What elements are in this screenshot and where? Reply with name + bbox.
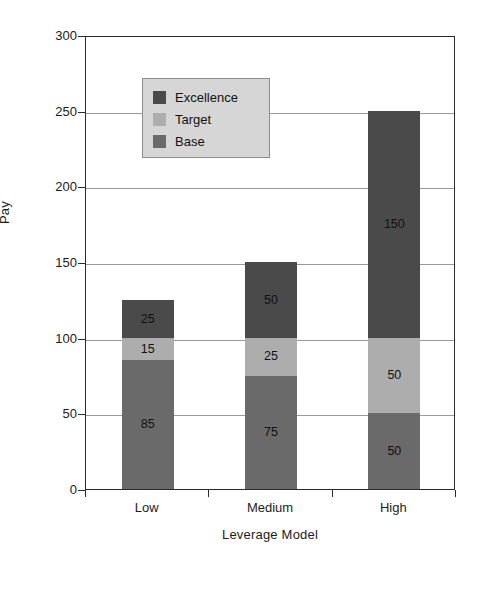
x-tick-mark-0 xyxy=(85,490,86,497)
legend-item-base: Base xyxy=(153,130,269,152)
y-tick-label-0: 0 xyxy=(33,482,77,497)
bar-value-label: 150 xyxy=(384,218,405,231)
x-tick-label-low: Low xyxy=(87,500,207,515)
x-tick-mark-1 xyxy=(208,490,209,497)
bar-segment-low-base: 85 xyxy=(122,360,174,489)
legend-swatch-base xyxy=(153,135,166,148)
bar-segment-medium-target: 25 xyxy=(245,338,297,376)
x-axis-title: Leverage Model xyxy=(85,527,455,542)
plot-area: 8515257525505050150 xyxy=(85,36,455,490)
y-tick-label-300: 300 xyxy=(33,28,77,43)
y-tick-mark-50 xyxy=(78,414,85,415)
bar-value-label: 15 xyxy=(141,343,155,356)
y-tick-label-100: 100 xyxy=(33,331,77,346)
y-axis-title: Pay xyxy=(0,173,12,253)
bar-segment-low-target: 15 xyxy=(122,338,174,361)
bar-group-high: 5050150 xyxy=(368,35,420,489)
legend-item-target: Target xyxy=(153,108,269,130)
bar-value-label: 50 xyxy=(264,294,278,307)
legend-label: Excellence xyxy=(175,90,238,105)
x-tick-label-medium: Medium xyxy=(210,500,330,515)
y-tick-mark-0 xyxy=(78,490,85,491)
bar-value-label: 75 xyxy=(264,426,278,439)
chart-legend: ExcellenceTargetBase xyxy=(142,78,270,158)
y-tick-mark-100 xyxy=(78,339,85,340)
legend-label: Base xyxy=(175,134,205,149)
bar-value-label: 50 xyxy=(387,445,401,458)
y-tick-label-150: 150 xyxy=(33,255,77,270)
bar-segment-medium-base: 75 xyxy=(245,376,297,490)
y-tick-label-250: 250 xyxy=(33,104,77,119)
bar-segment-low-excellence: 25 xyxy=(122,300,174,338)
legend-swatch-target xyxy=(153,113,166,126)
legend-label: Target xyxy=(175,112,211,127)
x-tick-label-high: High xyxy=(333,500,453,515)
bar-segment-high-base: 50 xyxy=(368,413,420,489)
bar-value-label: 50 xyxy=(387,369,401,382)
x-tick-mark-2 xyxy=(332,490,333,497)
bar-segment-high-target: 50 xyxy=(368,338,420,414)
bar-value-label: 85 xyxy=(141,418,155,431)
y-tick-label-50: 50 xyxy=(33,406,77,421)
legend-item-excellence: Excellence xyxy=(153,86,269,108)
y-tick-label-200: 200 xyxy=(33,179,77,194)
bar-value-label: 25 xyxy=(264,350,278,363)
y-tick-mark-300 xyxy=(78,36,85,37)
bar-segment-high-excellence: 150 xyxy=(368,111,420,338)
legend-swatch-excellence xyxy=(153,91,166,104)
stacked-bar-chart: Pay 050100150200250300 85152575255050501… xyxy=(0,0,482,589)
y-tick-mark-150 xyxy=(78,263,85,264)
y-tick-mark-200 xyxy=(78,187,85,188)
bar-value-label: 25 xyxy=(141,313,155,326)
bar-segment-medium-excellence: 50 xyxy=(245,262,297,338)
x-tick-mark-3 xyxy=(455,490,456,497)
y-tick-mark-250 xyxy=(78,112,85,113)
